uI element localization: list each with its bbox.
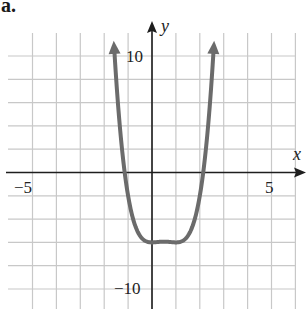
y-tick-label-neg10: −10: [114, 279, 141, 298]
x-tick-label-5: 5: [265, 178, 274, 197]
x-axis-label: x: [292, 144, 301, 164]
curve-arrow-right-icon: [207, 41, 219, 54]
y-tick-label-10: 10: [126, 47, 143, 66]
curve-arrow-left-icon: [109, 41, 121, 54]
y-axis-label: y: [159, 16, 169, 36]
x-tick-label-neg5: −5: [14, 178, 32, 197]
function-graph: x y −5 5 10 −10: [0, 0, 307, 309]
function-curve: [114, 49, 213, 243]
